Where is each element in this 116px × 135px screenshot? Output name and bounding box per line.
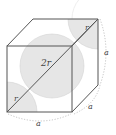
label-edge-depth: a — [88, 102, 93, 111]
cube-edge-top-left — [7, 19, 33, 46]
corner-sphere-top-right-outer-arc — [72, 0, 98, 19]
cube-diagram: 2r r r a a a — [0, 0, 116, 135]
dimension-arc-depth — [74, 85, 100, 114]
label-edge-bottom: a — [36, 119, 41, 128]
label-edge-right: a — [104, 48, 109, 57]
label-center-diameter: 2r — [40, 58, 52, 68]
